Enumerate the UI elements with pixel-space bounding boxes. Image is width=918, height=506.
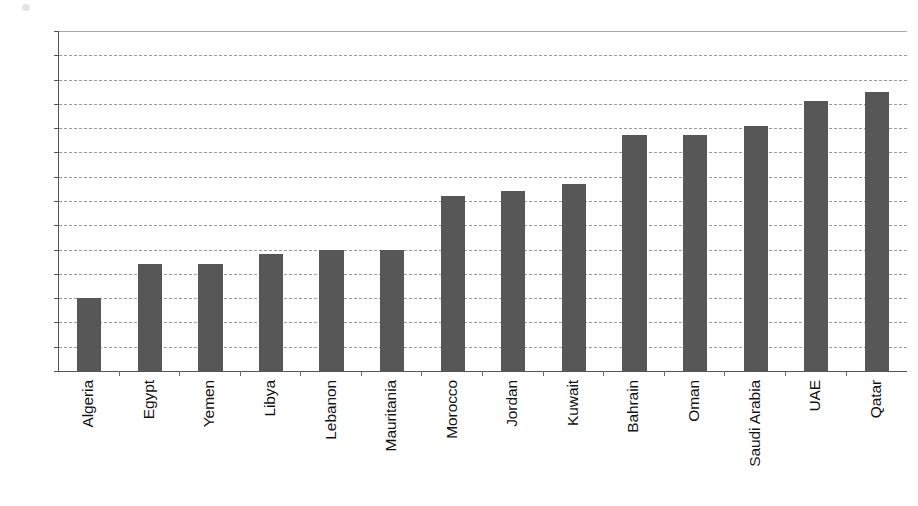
x-axis-category-label: Bahrain bbox=[626, 380, 642, 433]
x-axis-tick-mark bbox=[119, 371, 120, 376]
bar-slot bbox=[665, 31, 726, 371]
x-axis-category-label: UAE bbox=[807, 380, 823, 412]
x-axis-category-label: Morocco bbox=[444, 380, 460, 439]
bar[interactable] bbox=[198, 264, 222, 371]
bars-layer bbox=[59, 31, 907, 371]
plot-area: 7.06.56.05.55.04.54.03.53.02.52.01.51.00… bbox=[58, 31, 907, 372]
x-axis-label-slot: Yemen bbox=[179, 378, 240, 502]
x-axis-label-slot: Oman bbox=[664, 378, 725, 502]
x-axis-label-slot: Libya bbox=[240, 378, 301, 502]
bar[interactable] bbox=[259, 254, 283, 371]
x-axis-category-label: Saudi Arabia bbox=[747, 380, 763, 467]
x-axis-tick-mark bbox=[300, 371, 301, 376]
x-axis-tick-mark bbox=[785, 371, 786, 376]
x-axis-label-slot: Egypt bbox=[119, 378, 180, 502]
x-axis-tick-mark bbox=[724, 371, 725, 376]
bar[interactable] bbox=[622, 135, 646, 371]
bar[interactable] bbox=[319, 250, 343, 371]
bar-slot bbox=[362, 31, 423, 371]
bar-slot bbox=[483, 31, 544, 371]
bar[interactable] bbox=[562, 184, 586, 371]
x-axis-tick-mark bbox=[421, 371, 422, 376]
x-axis-category-label: Libya bbox=[262, 380, 278, 417]
x-axis-tick-mark bbox=[179, 371, 180, 376]
bar[interactable] bbox=[865, 92, 889, 371]
x-axis-category-label: Lebanon bbox=[323, 380, 339, 440]
bar-chart-figure: 7.06.56.05.55.04.54.03.53.02.52.01.51.00… bbox=[0, 0, 918, 506]
y-axis-tick-mark bbox=[54, 371, 59, 372]
bar-slot bbox=[786, 31, 847, 371]
x-axis-category-label: Mauritania bbox=[383, 380, 399, 451]
bar-slot bbox=[604, 31, 665, 371]
x-axis-tick-mark bbox=[603, 371, 604, 376]
x-axis-tick-mark bbox=[846, 371, 847, 376]
bar-slot bbox=[725, 31, 786, 371]
bar-slot bbox=[59, 31, 120, 371]
bar[interactable] bbox=[501, 191, 525, 371]
x-axis-label-slot: UAE bbox=[785, 378, 846, 502]
x-axis-category-label: Jordan bbox=[505, 380, 521, 427]
x-axis-label-slot: Kuwait bbox=[543, 378, 604, 502]
x-axis-label-slot: Jordan bbox=[482, 378, 543, 502]
bar[interactable] bbox=[804, 101, 828, 371]
x-axis-label-slot: Saudi Arabia bbox=[724, 378, 785, 502]
x-axis-category-label: Oman bbox=[686, 380, 702, 422]
x-axis-label-slot: Bahrain bbox=[603, 378, 664, 502]
x-axis-label-slot: Qatar bbox=[846, 378, 907, 502]
bar[interactable] bbox=[441, 196, 465, 371]
bar-slot bbox=[301, 31, 362, 371]
x-axis-category-label: Yemen bbox=[202, 380, 218, 427]
bar[interactable] bbox=[683, 135, 707, 371]
x-axis-category-label: Kuwait bbox=[565, 380, 581, 426]
bar[interactable] bbox=[77, 298, 101, 371]
bar[interactable] bbox=[380, 250, 404, 371]
bar[interactable] bbox=[744, 126, 768, 371]
x-axis-label-slot: Lebanon bbox=[300, 378, 361, 502]
x-axis-tick-mark bbox=[361, 371, 362, 376]
x-axis-tick-mark bbox=[240, 371, 241, 376]
x-axis-category-label: Qatar bbox=[868, 380, 884, 418]
x-axis-label-slot: Algeria bbox=[58, 378, 119, 502]
bar-slot bbox=[544, 31, 605, 371]
x-axis-label-slot: Morocco bbox=[421, 378, 482, 502]
x-axis-labels-layer: AlgeriaEgyptYemenLibyaLebanonMauritaniaM… bbox=[58, 378, 906, 502]
x-axis-category-label: Egypt bbox=[141, 380, 157, 419]
bar-slot bbox=[180, 31, 241, 371]
scan-artifact-speck bbox=[22, 4, 30, 11]
bar-slot bbox=[847, 31, 908, 371]
bar[interactable] bbox=[138, 264, 162, 371]
bar-slot bbox=[120, 31, 181, 371]
x-axis-category-label: Algeria bbox=[81, 380, 97, 428]
x-axis-label-slot: Mauritania bbox=[361, 378, 422, 502]
bar-slot bbox=[422, 31, 483, 371]
x-axis-tick-mark bbox=[482, 371, 483, 376]
x-axis-tick-mark bbox=[664, 371, 665, 376]
x-axis-tick-mark bbox=[543, 371, 544, 376]
bar-slot bbox=[241, 31, 302, 371]
